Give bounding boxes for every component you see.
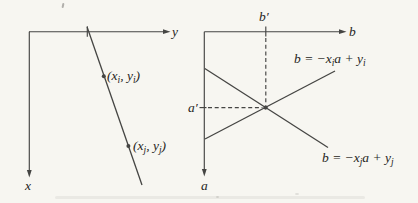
point-j-label-open: (x — [133, 138, 144, 153]
point-i-label: (xi, yi) — [107, 69, 140, 83]
point-i-dot — [102, 74, 106, 78]
point-i-label-open: (x — [107, 68, 118, 83]
b-prime-label: b′ — [259, 10, 269, 24]
scan-artifact — [295, 193, 299, 195]
a-prime-label: a′ — [188, 101, 198, 115]
y-axis-label: y — [172, 25, 178, 39]
equation-j-label: b = −xja + yj — [322, 151, 394, 165]
y-axis-arrowhead — [163, 29, 171, 34]
equation-i-sub2: i — [363, 58, 366, 68]
equation-i-mid: a + y — [334, 51, 363, 66]
equation-i-lhs: b = −x — [294, 51, 332, 66]
a-axis-arrowhead — [202, 169, 207, 177]
a-axis-label: a — [201, 179, 208, 193]
point-j-label-mid: , y — [146, 138, 159, 153]
point-j-dot — [126, 144, 130, 148]
point-i-label-mid: , y — [120, 68, 133, 83]
point-i-label-close: ) — [136, 68, 141, 83]
hough-transform-figure: y x (xi, yi) (xj, yj) b′ b a′ a b = −xia… — [0, 0, 418, 203]
b-axis-arrowhead — [339, 29, 347, 34]
b-axis-label: b — [349, 25, 356, 39]
x-axis-arrowhead — [27, 170, 32, 178]
x-axis-label: x — [25, 179, 31, 193]
equation-j-lhs: b = −x — [322, 150, 360, 165]
equation-j-mid: a + y — [362, 150, 391, 165]
equation-j-sub2: j — [391, 157, 394, 167]
image-space-line — [87, 27, 142, 185]
point-j-label: (xj, yj) — [133, 139, 166, 153]
equation-i-label: b = −xia + yi — [294, 52, 366, 66]
intersection-dot — [264, 106, 268, 110]
scan-artifact — [55, 196, 365, 199]
point-j-label-close: ) — [162, 138, 167, 153]
